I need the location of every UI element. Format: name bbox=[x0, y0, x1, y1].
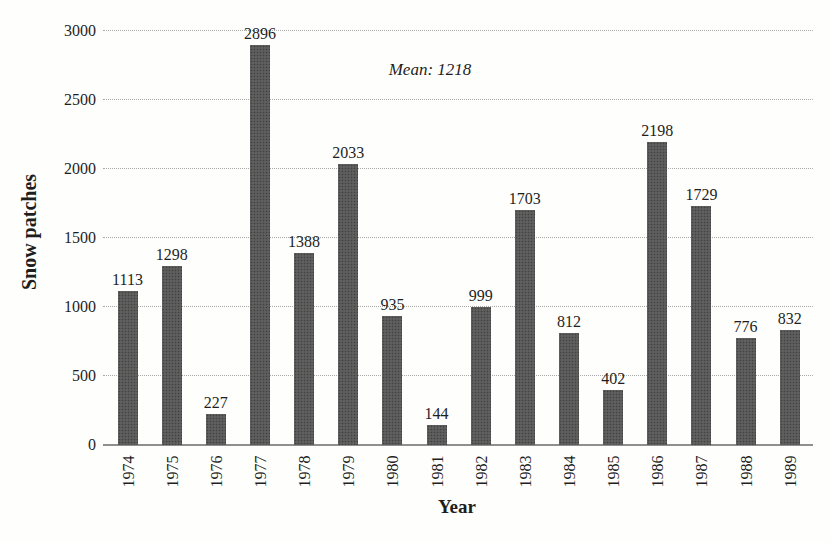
y-tick-label-500: 500 bbox=[30, 366, 96, 386]
x-tick-label-1980: 1980 bbox=[384, 456, 401, 504]
bar-1975 bbox=[162, 266, 182, 445]
bar-1977 bbox=[250, 45, 270, 445]
x-tick-label-1983: 1983 bbox=[516, 456, 533, 504]
bar-1981 bbox=[427, 425, 447, 445]
gridline-3000 bbox=[103, 30, 813, 31]
bar-1974 bbox=[118, 291, 138, 445]
x-tick-label-1976: 1976 bbox=[207, 456, 224, 504]
bar-1983 bbox=[515, 210, 535, 445]
value-label-1982: 999 bbox=[449, 287, 513, 304]
x-tick-label-1977: 1977 bbox=[251, 456, 268, 504]
x-tick-label-1974: 1974 bbox=[119, 456, 136, 504]
y-tick-label-2500: 2500 bbox=[30, 90, 96, 110]
value-label-1984: 812 bbox=[537, 313, 601, 330]
x-tick-label-1986: 1986 bbox=[649, 456, 666, 504]
value-label-1987: 1729 bbox=[669, 186, 733, 203]
bar-1976 bbox=[206, 414, 226, 445]
x-tick-label-1987: 1987 bbox=[693, 456, 710, 504]
y-tick-label-2000: 2000 bbox=[30, 159, 96, 179]
bar-1984 bbox=[559, 333, 579, 445]
value-label-1977: 2896 bbox=[228, 25, 292, 42]
value-label-1980: 935 bbox=[360, 296, 424, 313]
value-label-1989: 832 bbox=[758, 310, 822, 327]
bar-1988 bbox=[736, 338, 756, 445]
plot-area: 1113129822728961388203393514499917038124… bbox=[103, 31, 813, 445]
bar-1987 bbox=[691, 206, 711, 445]
x-tick-label-1979: 1979 bbox=[340, 456, 357, 504]
bar-1982 bbox=[471, 307, 491, 445]
value-label-1978: 1388 bbox=[272, 233, 336, 250]
value-label-1985: 402 bbox=[581, 370, 645, 387]
x-tick-label-1978: 1978 bbox=[296, 456, 313, 504]
value-label-1974: 1113 bbox=[96, 271, 160, 288]
x-tick-label-1985: 1985 bbox=[605, 456, 622, 504]
y-tick-label-1000: 1000 bbox=[30, 297, 96, 317]
y-tick-label-3000: 3000 bbox=[30, 21, 96, 41]
bar-1989 bbox=[780, 330, 800, 445]
value-label-1986: 2198 bbox=[625, 122, 689, 139]
value-label-1983: 1703 bbox=[493, 190, 557, 207]
y-tick-label-1500: 1500 bbox=[30, 228, 96, 248]
snow-patches-bar-chart: Snow patches 111312982272896138820339351… bbox=[0, 0, 830, 542]
mean-annotation: Mean: 1218 bbox=[350, 60, 510, 80]
x-tick-label-1988: 1988 bbox=[737, 456, 754, 504]
bar-1979 bbox=[338, 164, 358, 445]
value-label-1975: 1298 bbox=[140, 246, 204, 263]
y-tick-label-0: 0 bbox=[30, 435, 96, 455]
x-tick-label-1975: 1975 bbox=[163, 456, 180, 504]
x-axis-title: Year bbox=[397, 496, 517, 518]
bar-1986 bbox=[647, 142, 667, 445]
x-tick-label-1981: 1981 bbox=[428, 456, 445, 504]
bar-1980 bbox=[382, 316, 402, 445]
value-label-1979: 2033 bbox=[316, 144, 380, 161]
bar-1985 bbox=[603, 390, 623, 445]
value-label-1976: 227 bbox=[184, 394, 248, 411]
x-tick-label-1982: 1982 bbox=[472, 456, 489, 504]
x-tick-label-1984: 1984 bbox=[561, 456, 578, 504]
gridline-2500 bbox=[103, 99, 813, 100]
x-tick-label-1989: 1989 bbox=[781, 456, 798, 504]
gridline-2000 bbox=[103, 168, 813, 169]
value-label-1981: 144 bbox=[405, 405, 469, 422]
bar-1978 bbox=[294, 253, 314, 445]
